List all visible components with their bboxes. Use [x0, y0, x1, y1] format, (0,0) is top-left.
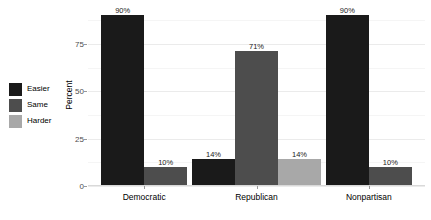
- gridline-vertical: [369, 6, 370, 186]
- bar-democratic-same[interactable]: [144, 167, 187, 186]
- legend-label: Harder: [27, 117, 51, 125]
- bar-value-label: 90%: [340, 7, 355, 15]
- x-axis-tick-marks: [88, 186, 425, 190]
- x-tick-label: Democratic: [123, 192, 166, 202]
- bar-value-label: 10%: [383, 159, 398, 167]
- legend-label: Easier: [27, 85, 50, 93]
- plot-panel: 90%10%14%71%14%90%10%: [88, 6, 425, 186]
- bar-democratic-easier[interactable]: [101, 15, 144, 186]
- y-tick-mark: [84, 186, 87, 187]
- bar-republican-harder[interactable]: [278, 159, 321, 186]
- y-axis-tick-labels: 7550250: [70, 6, 84, 186]
- y-tick-label: 50: [70, 87, 84, 96]
- legend-item-harder[interactable]: Harder: [9, 113, 67, 129]
- bar-nonpartisan-same[interactable]: [369, 167, 412, 186]
- y-tick-mark: [84, 91, 87, 92]
- y-tick-mark: [84, 139, 87, 140]
- bar-nonpartisan-easier[interactable]: [326, 15, 369, 186]
- x-tick-mark: [369, 186, 370, 189]
- x-axis-tick-labels: DemocraticRepublicanNonpartisan: [88, 192, 425, 206]
- gridline-vertical: [144, 6, 145, 186]
- y-tick-label: 25: [70, 134, 84, 143]
- bar-chart: EasierSameHarder Percent 7550250 90%10%1…: [0, 0, 431, 220]
- bar-value-label: 14%: [292, 151, 307, 159]
- x-tick-label: Republican: [235, 192, 278, 202]
- bar-republican-same[interactable]: [235, 51, 278, 186]
- x-tick-mark: [257, 186, 258, 189]
- chart-legend: EasierSameHarder: [9, 81, 67, 129]
- legend-swatch-same: [9, 99, 22, 112]
- legend-item-same[interactable]: Same: [9, 97, 67, 113]
- y-tick-label: 0: [70, 182, 84, 191]
- legend-label: Same: [27, 101, 48, 109]
- legend-item-easier[interactable]: Easier: [9, 81, 67, 97]
- y-tick-mark: [84, 44, 87, 45]
- x-tick-label: Nonpartisan: [346, 192, 392, 202]
- y-tick-label: 75: [70, 39, 84, 48]
- bar-value-label: 90%: [115, 7, 130, 15]
- bar-republican-easier[interactable]: [192, 159, 235, 186]
- bar-value-label: 10%: [158, 159, 173, 167]
- legend-swatch-easier: [9, 83, 22, 96]
- bar-value-label: 14%: [206, 151, 221, 159]
- legend-swatch-harder: [9, 115, 22, 128]
- bar-value-label: 71%: [249, 43, 264, 51]
- x-tick-mark: [144, 186, 145, 189]
